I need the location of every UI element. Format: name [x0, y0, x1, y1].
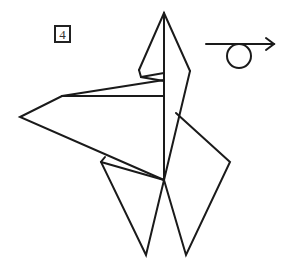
origami-step-diagram: 4: [0, 0, 291, 268]
lower-left-flap: [101, 157, 164, 255]
turn-over-icon: [206, 38, 274, 68]
step-number: 4: [59, 28, 66, 41]
right-body-edge: [164, 71, 190, 180]
origami-model-drawing: [0, 0, 291, 268]
step-number-badge: 4: [54, 25, 71, 43]
left-wing: [20, 80, 164, 180]
head-notch: [139, 70, 164, 81]
